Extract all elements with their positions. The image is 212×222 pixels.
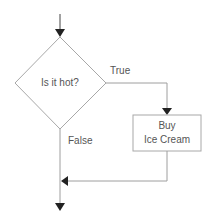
flowchart-canvas: [0, 0, 212, 222]
true-arrowhead-icon: [162, 108, 172, 115]
decision-label: Is it hot?: [41, 77, 79, 88]
true-connector: [106, 83, 167, 108]
merge-connector: [68, 151, 167, 181]
process-label-line1: Buy: [133, 120, 201, 131]
exit-arrowhead-icon: [55, 203, 65, 211]
entry-arrowhead-icon: [55, 29, 65, 37]
process-label-line2: Ice Cream: [133, 134, 201, 145]
false-label: False: [68, 135, 92, 146]
merge-arrowhead-icon: [61, 176, 68, 186]
true-label: True: [110, 65, 130, 76]
